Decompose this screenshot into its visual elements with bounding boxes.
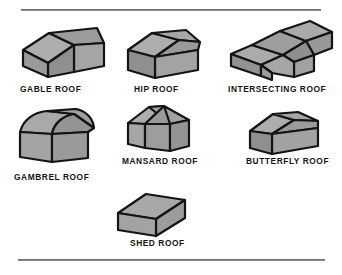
roof-label-butterfly: BUTTERFLY ROOF — [246, 156, 329, 166]
bottom-divider-rule — [18, 259, 325, 261]
gable-roof-icon — [18, 22, 110, 82]
roof-label-shed: SHED ROOF — [130, 238, 185, 248]
roof-label-gambrel: GAMBREL ROOF — [14, 172, 89, 182]
shed-roof-icon — [114, 190, 190, 240]
intersecting-roof-icon — [228, 18, 336, 82]
roof-types-figure: GABLE ROOF HIP ROOF — [0, 0, 342, 275]
roof-label-hip: HIP ROOF — [134, 84, 179, 94]
mansard-roof-icon — [120, 104, 198, 154]
butterfly-roof-icon — [246, 110, 322, 158]
roof-label-intersecting: INTERSECTING ROOF — [228, 84, 326, 94]
roof-label-gable: GABLE ROOF — [20, 84, 81, 94]
hip-roof-icon — [124, 28, 206, 82]
roof-label-mansard: MANSARD ROOF — [122, 156, 198, 166]
gambrel-roof-icon — [14, 108, 102, 170]
top-divider-rule — [21, 9, 321, 11]
